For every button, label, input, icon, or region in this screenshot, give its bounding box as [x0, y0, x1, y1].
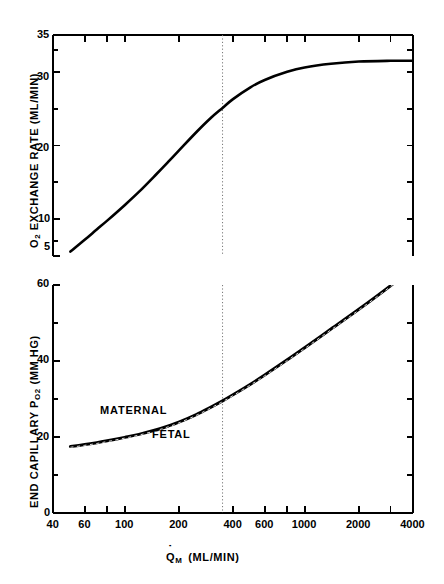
- canvas-background: [0, 0, 444, 584]
- x-tick-label-40: 40: [47, 518, 59, 530]
- x-tick-label-4000: 4000: [400, 518, 424, 530]
- plot-canvas: [0, 0, 444, 584]
- top-ylabel-sub: 2: [33, 234, 42, 239]
- x-tick-label-60: 60: [78, 518, 90, 530]
- top-ytick-35: 35: [37, 28, 49, 40]
- x-axis-units: (ML/MIN): [188, 551, 239, 563]
- top-ytick-20: 20: [37, 141, 49, 153]
- bottom-ytick-40: 40: [37, 353, 49, 365]
- x-tick-label-100: 100: [115, 518, 133, 530]
- top-ylabel-rest: EXCHANGE RATE (ML/MIN): [28, 73, 40, 234]
- x-tick-label-2000: 2000: [346, 518, 370, 530]
- x-axis-title: Q ˙ M(ML/MIN): [166, 551, 240, 565]
- x-tick-label-400: 400: [223, 518, 241, 530]
- bottom-ylabel-sub: O2: [33, 388, 42, 400]
- maternal-curve-label: MATERNAL: [100, 404, 167, 416]
- fetal-curve-label: FETAL: [152, 428, 191, 440]
- top-ytick-30: 30: [37, 70, 49, 82]
- bottom-ytick-20: 20: [37, 430, 49, 442]
- x-tick-label-1000: 1000: [292, 518, 316, 530]
- x-axis-subscript: M: [175, 556, 182, 565]
- bottom-ytick-60: 60: [37, 277, 49, 289]
- bottom-ylabel-lead: END CAPILLARY P: [28, 400, 40, 508]
- top-ylabel-lead: O: [28, 239, 40, 248]
- top-ytick-5: 5: [44, 240, 50, 252]
- figure-root: O2 EXCHANGE RATE (ML/MIN) 35 30 20 10 5 …: [0, 0, 444, 584]
- x-tick-label-200: 200: [169, 518, 187, 530]
- x-tick-label-600: 600: [255, 518, 273, 530]
- top-ytick-10: 10: [38, 212, 50, 224]
- x-axis-dot-accent: ˙: [168, 542, 173, 557]
- bottom-ytick-0: 0: [44, 506, 50, 518]
